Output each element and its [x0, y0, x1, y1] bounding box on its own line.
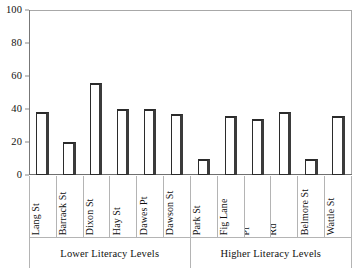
- category-label-cell: Barrack St: [57, 176, 84, 237]
- bar: [279, 112, 291, 175]
- y-axis-tick-label: 40: [11, 104, 22, 115]
- bar: [117, 109, 129, 175]
- category-label: Barrack St: [58, 192, 68, 236]
- bar: [144, 109, 156, 175]
- category-label: Belmore St: [299, 189, 309, 235]
- y-axis-tick-label: 20: [11, 137, 22, 148]
- group-label: Lower Literacy Levels: [60, 248, 159, 259]
- category-label-cell: Wattle St: [325, 176, 352, 237]
- bar-chart-figure: 020406080100 Lang StBarrack StDixon StHa…: [0, 0, 360, 275]
- y-axis-tick-label: 100: [6, 5, 22, 16]
- category-label-line: Dawson St: [165, 190, 175, 235]
- bar: [36, 112, 48, 175]
- group-cell: Higher Literacy Levels: [191, 238, 353, 268]
- category-label-line: Fig Lane: [219, 198, 229, 235]
- bar: [252, 119, 264, 175]
- category-label-line: Dawes Pt: [138, 196, 148, 235]
- bar-slot: [298, 10, 325, 175]
- category-label-line: Dixon St: [85, 198, 95, 235]
- category-label-line: Hay St: [112, 207, 122, 235]
- category-label: Dawes Pt: [138, 196, 148, 235]
- category-label-line: Park St: [192, 205, 202, 235]
- category-label: WynyardRd: [271, 198, 277, 235]
- category-label: Hay St: [112, 207, 122, 235]
- category-label: Lang St: [31, 203, 41, 235]
- y-axis-tick-label: 0: [17, 170, 22, 181]
- category-label-cell: Belmore St: [298, 176, 325, 237]
- category-labels-table: Lang StBarrack StDixon StHay StDawes PtD…: [29, 176, 352, 238]
- bar: [63, 142, 75, 175]
- bar: [198, 159, 210, 176]
- category-label-cell: Park St: [191, 176, 218, 237]
- bar: [305, 159, 317, 176]
- category-label-cell: Lang St: [30, 176, 57, 237]
- category-label-line: Rd: [271, 198, 277, 235]
- bar-slot: [137, 10, 164, 175]
- category-label-cell: Dawes Pt: [137, 176, 164, 237]
- y-axis-tick-label: 80: [11, 38, 22, 49]
- category-label-line: Belmore St: [299, 189, 309, 235]
- category-label-cell: WentworthPl: [245, 176, 272, 237]
- bar-slot: [56, 10, 83, 175]
- category-label-cell: Fig Lane: [218, 176, 245, 237]
- bar: [90, 83, 102, 175]
- category-label-cell: Hay St: [110, 176, 137, 237]
- bar-slot: [83, 10, 110, 175]
- bar-slot: [244, 10, 271, 175]
- bar-slot: [110, 10, 137, 175]
- category-label-cell: Dawson St: [164, 176, 191, 237]
- category-label-line: Lang St: [31, 203, 41, 235]
- bar: [225, 116, 237, 175]
- category-label: Park St: [192, 205, 202, 235]
- category-label: Fig Lane: [219, 198, 229, 235]
- category-label-line: Wattle St: [326, 197, 336, 235]
- bars-layer: [29, 10, 352, 175]
- bar: [171, 114, 183, 175]
- group-label: Higher Literacy Levels: [220, 248, 321, 259]
- category-label: Wattle St: [326, 197, 336, 235]
- bar-slot: [325, 10, 352, 175]
- y-axis-tick-label: 60: [11, 71, 22, 82]
- category-label-cell: WynyardRd: [271, 176, 298, 237]
- category-label: Dawson St: [165, 190, 175, 235]
- bar: [332, 116, 344, 175]
- bar-slot: [217, 10, 244, 175]
- category-label-line: Pl: [245, 190, 251, 235]
- bar-slot: [29, 10, 56, 175]
- bar-slot: [191, 10, 218, 175]
- category-label: Dixon St: [85, 198, 95, 235]
- category-label: WentworthPl: [245, 190, 251, 235]
- category-label-line: Barrack St: [58, 192, 68, 236]
- group-caption-row: Lower Literacy LevelsHigher Literacy Lev…: [29, 238, 352, 268]
- y-axis: 020406080100: [0, 0, 29, 185]
- bar-slot: [164, 10, 191, 175]
- category-label-cell: Dixon St: [84, 176, 111, 237]
- group-cell: Lower Literacy Levels: [29, 238, 191, 268]
- bar-slot: [271, 10, 298, 175]
